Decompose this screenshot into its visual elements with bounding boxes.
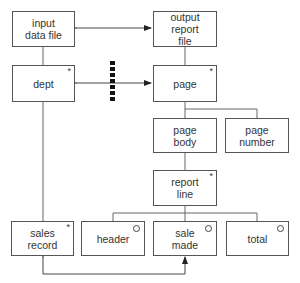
- iteration-marker: *: [209, 67, 213, 76]
- selection-marker-icon: [133, 225, 140, 232]
- box-page-number: page number: [225, 118, 289, 153]
- box-label: report line: [171, 176, 198, 200]
- box-label: output report file: [170, 11, 199, 47]
- box-report-line: report line *: [153, 170, 217, 206]
- box-page: page *: [153, 65, 217, 102]
- box-input-data-file: input data file: [12, 11, 75, 47]
- iteration-marker: *: [67, 67, 71, 76]
- selection-marker-icon: [277, 225, 284, 232]
- box-label: sales record: [28, 227, 58, 251]
- box-label: input data file: [25, 17, 62, 41]
- box-total: total: [226, 221, 289, 256]
- box-label: page: [173, 78, 196, 90]
- box-label: page number: [239, 124, 275, 148]
- box-header: header: [81, 221, 145, 256]
- box-page-body: page body: [153, 118, 217, 153]
- iteration-marker: *: [66, 223, 70, 232]
- box-output-report-file: output report file: [153, 11, 217, 47]
- box-dept: dept *: [12, 65, 75, 102]
- box-label: page body: [173, 124, 196, 148]
- selection-marker-icon: [205, 225, 212, 232]
- box-label: header: [97, 233, 130, 245]
- box-label: total: [248, 233, 268, 245]
- box-label: dept: [33, 78, 53, 90]
- iteration-marker: *: [209, 172, 213, 181]
- box-sale-made: sale made: [153, 221, 217, 256]
- box-sales-record: sales record *: [11, 221, 74, 256]
- box-label: sale made: [172, 227, 198, 251]
- structure-clash-bar: [110, 61, 115, 101]
